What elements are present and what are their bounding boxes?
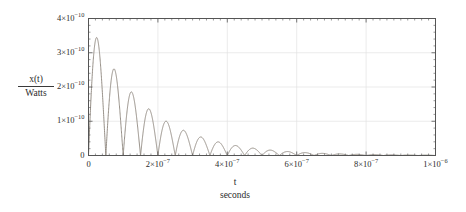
y-tick-label-1: 1×10−10 [23,116,85,125]
y-axis-title-fraction-bar [18,86,54,87]
x-axis-title-variable: t [180,176,290,189]
y-axis-title: x(t) Watts [10,74,62,98]
y-axis-title-numerator: x(t) [10,74,62,86]
x-tick-label-1: 2×10−7 [128,160,188,169]
y-axis-title-denominator: Watts [10,88,62,99]
x-axis-title-unit: seconds [180,189,290,202]
x-tick-label-2: 4×10−7 [197,160,257,169]
x-tick-label-0: 0 [59,160,119,169]
gridlines [89,19,436,156]
chart-figure: 4×10−10 3×10−10 2×10−10 1×10−10 0 0 2×10… [0,0,466,212]
x-tick-label-4: 8×10−7 [336,160,396,169]
y-tick-label-4: 4×10−10 [23,14,85,23]
y-tick-label-3: 3×10−10 [23,48,85,57]
x-axis-title: t seconds [180,176,290,202]
x-tick-label-5: 1×10−6 [406,160,466,169]
y-tick-label-0: 0 [23,151,85,160]
x-tick-label-3: 6×10−7 [267,160,327,169]
data-series-curve [89,38,436,156]
